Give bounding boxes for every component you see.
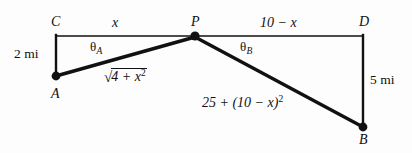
radical-body: 4 + x2 <box>111 68 147 84</box>
diagram-canvas <box>0 0 412 153</box>
theta-b-subscript: B <box>247 46 253 56</box>
segment-pb <box>195 37 363 127</box>
theta-b-glyph: θ <box>240 39 246 54</box>
segment-label-cp: x <box>112 16 118 30</box>
vertex-dot-b <box>359 123 368 132</box>
theta-a-glyph: θ <box>90 39 96 54</box>
angle-label-theta-b: θB <box>240 40 252 56</box>
segment-label-ap-expression: √4 + x2 <box>104 68 147 85</box>
geometry-diagram: C P D A B x 10 − x 2 mi 5 mi θA θB √4 + … <box>0 0 412 153</box>
segment-label-cp-text: x <box>112 15 118 30</box>
segment-label-pd: 10 − x <box>260 16 297 30</box>
pb-exponent: 2 <box>278 94 283 104</box>
ap-radicand: 4 + x <box>111 69 141 84</box>
segment-label-db: 5 mi <box>370 73 394 87</box>
segment-label-ca: 2 mi <box>14 47 38 61</box>
ap-exponent: 2 <box>141 68 146 78</box>
vertex-label-p: P <box>191 15 200 29</box>
vertex-label-c: C <box>51 15 60 29</box>
radical-group: √4 + x2 <box>104 68 147 85</box>
vertex-dot-a <box>52 72 61 81</box>
vertex-label-a: A <box>51 87 60 101</box>
vertex-label-d: D <box>359 15 369 29</box>
pb-expression-text: 25 + (10 − x) <box>202 95 278 110</box>
angle-label-theta-a: θA <box>90 40 102 56</box>
segment-label-pd-text: 10 − x <box>260 15 297 30</box>
vertex-label-b: B <box>359 133 368 147</box>
theta-a-subscript: A <box>97 46 103 56</box>
vertex-dot-p <box>190 31 199 40</box>
segment-label-pb-expression: 25 + (10 − x)2 <box>202 95 283 110</box>
